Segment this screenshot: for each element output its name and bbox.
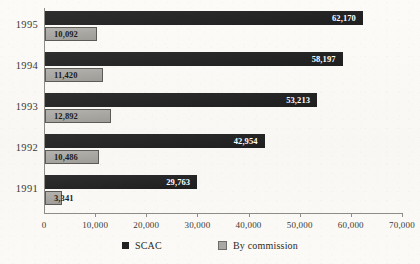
x-axis-tick-label: 50,000	[287, 220, 313, 230]
bar-value-label: 58,197	[312, 54, 343, 64]
bar-value-label: 12,892	[46, 111, 78, 121]
bar-row: 62,170	[45, 11, 402, 25]
bar-row: 42,954	[45, 134, 402, 148]
bar-commission: 11,420	[45, 68, 103, 82]
bar-row: 11,420	[45, 68, 402, 82]
x-axis-tick-label: 30,000	[184, 220, 210, 230]
x-axis-tick	[146, 213, 147, 217]
bar-value-label: 62,170	[332, 13, 363, 23]
category-label-1992: 1992	[0, 142, 38, 153]
x-axis-tick-label: 60,000	[338, 220, 364, 230]
bar-row: 53,213	[45, 93, 402, 107]
commission-swatch	[218, 241, 227, 250]
bar-chart: 62,17010,09258,19711,42053,21312,89242,9…	[0, 0, 420, 264]
x-axis-tick-label: 10,000	[82, 220, 108, 230]
bar-row: 12,892	[45, 109, 402, 123]
bar-scac: 62,170	[45, 11, 363, 25]
bar-scac: 58,197	[45, 52, 343, 66]
bar-value-label: 29,763	[166, 177, 197, 187]
bar-group: 62,17010,092	[45, 11, 402, 41]
bar-value-label: 53,213	[286, 95, 317, 105]
x-axis-tick-label: 40,000	[236, 220, 262, 230]
bar-row: 3,341	[45, 191, 402, 205]
legend-label: By commission	[233, 240, 298, 251]
bar-group: 29,7633,341	[45, 175, 402, 205]
bar-row: 58,197	[45, 52, 402, 66]
category-label-1995: 1995	[0, 19, 38, 30]
x-axis-tick	[402, 213, 403, 217]
x-axis-tick-label: 20,000	[133, 220, 159, 230]
bar-group: 53,21312,892	[45, 93, 402, 123]
bar-row: 10,486	[45, 150, 402, 164]
legend-label: SCAC	[135, 240, 162, 251]
x-axis-tick	[95, 213, 96, 217]
bar-scac: 42,954	[45, 134, 265, 148]
bar-scac: 53,213	[45, 93, 317, 107]
category-label-1991: 1991	[0, 183, 38, 194]
legend-item-by-commission: By commission	[218, 240, 298, 251]
value-axis-line	[44, 213, 402, 214]
x-axis-tick	[197, 213, 198, 217]
bar-value-label: 42,954	[234, 136, 265, 146]
bar-scac: 29,763	[45, 175, 197, 189]
category-label-1993: 1993	[0, 101, 38, 112]
bar-group: 42,95410,486	[45, 134, 402, 164]
bar-value-label: 3,341	[46, 193, 74, 203]
scac-swatch	[122, 242, 129, 249]
x-axis-tick-label: 70,000	[389, 220, 415, 230]
bar-group: 58,19711,420	[45, 52, 402, 82]
legend-item-scac: SCAC	[122, 240, 162, 251]
bar-commission: 3,341	[45, 191, 62, 205]
category-label-1994: 1994	[0, 60, 38, 71]
bar-commission: 10,486	[45, 150, 99, 164]
bar-commission: 12,892	[45, 109, 111, 123]
x-axis-tick	[249, 213, 250, 217]
bar-value-label: 11,420	[46, 70, 78, 80]
bar-commission: 10,092	[45, 27, 97, 41]
chart-legend: SCACBy commission	[0, 240, 420, 251]
bar-row: 29,763	[45, 175, 402, 189]
bar-value-label: 10,486	[46, 152, 78, 162]
bar-value-label: 10,092	[46, 29, 78, 39]
x-axis-tick	[300, 213, 301, 217]
x-axis-tick-label: 0	[42, 220, 47, 230]
plot-area: 62,17010,09258,19711,42053,21312,89242,9…	[44, 8, 402, 213]
x-axis-tick	[351, 213, 352, 217]
bar-row: 10,092	[45, 27, 402, 41]
